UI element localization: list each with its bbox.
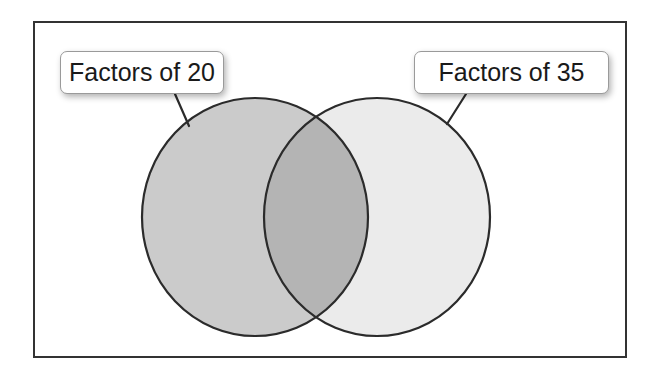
callout-label-left-text: Factors of 20: [69, 60, 215, 85]
callout-label-right: Factors of 35: [414, 51, 609, 94]
callout-label-left: Factors of 20: [60, 51, 224, 94]
leader-line-right: [447, 94, 466, 124]
leader-line-left: [175, 94, 189, 126]
figure-canvas: Factors of 20 Factors of 35: [0, 0, 656, 379]
callout-label-right-text: Factors of 35: [439, 60, 585, 85]
